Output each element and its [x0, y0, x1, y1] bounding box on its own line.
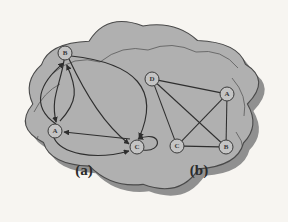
figure-canvas: BAC DACB (a) (b) — [0, 0, 288, 222]
graph-node-b-c[interactable]: C — [170, 139, 184, 153]
edge-b-A-B — [226, 101, 227, 140]
node-circle — [145, 72, 159, 86]
graph-node-a-a[interactable]: A — [48, 124, 62, 138]
graph-node-b-b[interactable]: B — [219, 140, 233, 154]
graph-node-a-c[interactable]: C — [130, 140, 144, 154]
edge-b-C-B — [184, 146, 219, 147]
cloud-graph-diagram: BAC DACB (a) (b) — [0, 0, 288, 222]
panel-label-a: (a) — [75, 162, 93, 179]
graph-node-b-d[interactable]: D — [145, 72, 159, 86]
panel-label-b: (b) — [190, 162, 208, 179]
graph-node-b-a[interactable]: A — [220, 87, 234, 101]
node-circle — [58, 46, 72, 60]
node-circle — [48, 124, 62, 138]
node-circle — [220, 87, 234, 101]
node-circle — [219, 140, 233, 154]
node-circle — [170, 139, 184, 153]
node-circle — [130, 140, 144, 154]
graph-node-a-b[interactable]: B — [58, 46, 72, 60]
